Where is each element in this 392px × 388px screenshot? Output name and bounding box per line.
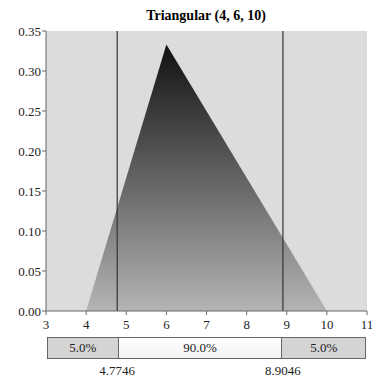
x-tick-label: 11 — [361, 317, 374, 332]
y-tick-label: 0.15 — [18, 184, 41, 199]
y-tick-label: 0.30 — [18, 64, 41, 79]
y-tick-label: 0.25 — [18, 104, 41, 119]
middle-label: 90.0% — [183, 340, 217, 356]
x-tick-label: 8 — [243, 317, 250, 332]
upper-cutoff-value: 8.9046 — [265, 363, 301, 379]
x-tick-label: 4 — [83, 317, 90, 332]
chart-title: Triangular (4, 6, 10) — [146, 8, 266, 24]
x-tick-label: 7 — [203, 317, 210, 332]
y-tick-label: 0.20 — [18, 144, 41, 159]
lower-cutoff-value: 4.7746 — [99, 363, 135, 379]
middle-segment: 90.0% — [118, 338, 283, 358]
x-tick-label: 10 — [320, 317, 333, 332]
triangular-distribution-chart: Triangular (4, 6, 10) 34567891011 0.000.… — [0, 0, 392, 335]
upper-tail-segment: 5.0% — [282, 338, 365, 358]
y-tick-label: 0.35 — [18, 24, 41, 39]
x-tick-label: 5 — [123, 317, 130, 332]
x-tick-label: 9 — [284, 317, 291, 332]
x-tick-label: 6 — [163, 317, 170, 332]
y-tick-label: 0.10 — [18, 224, 41, 239]
x-tick-label: 3 — [43, 317, 50, 332]
lower-tail-segment: 5.0% — [48, 338, 118, 358]
percentile-bar: 5.0% 90.0% 5.0% — [47, 337, 366, 359]
x-axis-ticks: 34567891011 — [43, 311, 374, 332]
y-tick-label: 0.05 — [18, 264, 41, 279]
y-tick-label: 0.00 — [18, 304, 41, 319]
y-axis-ticks: 0.000.050.100.150.200.250.300.35 — [18, 24, 46, 319]
lower-tail-label: 5.0% — [69, 340, 96, 356]
upper-tail-label: 5.0% — [310, 340, 337, 356]
